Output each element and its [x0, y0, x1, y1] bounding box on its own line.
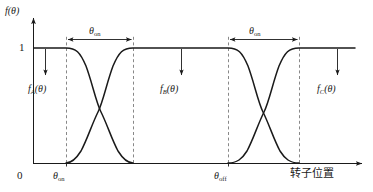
torque-sharing-function-figure: f(θ) 1 0 θon θon fA(θ) fB(θ) fC(θ) θon θ… — [0, 0, 373, 192]
plot-canvas — [0, 0, 373, 192]
curve-label-fb: fB(θ) — [160, 84, 178, 94]
x-axis-mark-theta-off: θoff — [214, 171, 227, 181]
y-axis-label: f(θ) — [5, 6, 19, 16]
y-tick-label-zero: 0 — [17, 170, 23, 181]
x-axis-label: 转子位置 — [290, 168, 334, 179]
dashed-guides — [67, 35, 300, 163]
span-label-theta-on-2: θon — [249, 26, 261, 36]
y-tick-label-one: 1 — [19, 42, 25, 53]
span-label-theta-on-1: θon — [89, 26, 101, 36]
curve-label-fa: fA(θ) — [28, 84, 46, 94]
curve-fb — [66, 48, 299, 163]
curve-label-fc: fC(θ) — [317, 84, 336, 94]
x-axis-mark-theta-on: θon — [53, 171, 65, 181]
